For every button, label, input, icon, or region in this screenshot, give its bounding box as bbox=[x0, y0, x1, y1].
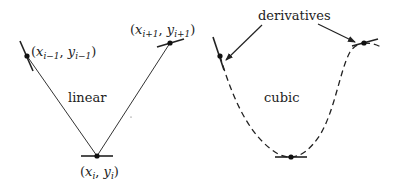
cubic-point-next bbox=[361, 40, 366, 45]
derivative-prev bbox=[213, 37, 224, 70]
label-point-next: (xi+1, yi+1) bbox=[130, 22, 195, 39]
arrow-to-right-derivative bbox=[318, 24, 355, 42]
label-cubic: cubic bbox=[264, 90, 299, 105]
arrow-to-left-derivative bbox=[226, 25, 262, 60]
point-next bbox=[167, 40, 172, 45]
cubic-point-prev bbox=[217, 53, 222, 58]
point-prev bbox=[24, 53, 29, 58]
label-point-prev: (xi−1, yi−1) bbox=[31, 44, 96, 61]
cubic-curve-tail bbox=[364, 43, 381, 47]
label-derivatives: derivatives bbox=[258, 8, 331, 23]
linear-segment-left bbox=[27, 56, 97, 156]
interpolation-diagram: (xi−1, yi−1) (xi+1, yi+1) (xi, yi) linea… bbox=[0, 0, 400, 185]
cubic-point-curr bbox=[288, 154, 293, 159]
stray-dot bbox=[130, 116, 131, 117]
linear-segment-right bbox=[97, 43, 170, 156]
point-curr bbox=[94, 153, 99, 158]
label-linear: linear bbox=[68, 90, 107, 105]
cubic-panel: derivatives cubic bbox=[213, 8, 381, 160]
linear-panel: (xi−1, yi−1) (xi+1, yi+1) (xi, yi) linea… bbox=[20, 22, 195, 181]
diagram-svg: (xi−1, yi−1) (xi+1, yi+1) (xi, yi) linea… bbox=[0, 0, 400, 185]
label-point-curr: (xi, yi) bbox=[80, 164, 119, 181]
